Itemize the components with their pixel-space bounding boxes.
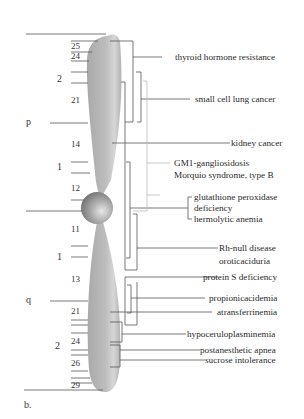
band-label: 21: [71, 96, 80, 105]
region-label: 2: [55, 341, 60, 351]
disease-label-thyroid-hormone-resistance: thyroid hormone resistance: [175, 52, 275, 63]
disease-label-rh-null-disease: Rh-null disease: [219, 243, 276, 254]
disease-label-sucrose-intolerance: sucrose intolerance: [205, 355, 276, 366]
disease-label-morquio-syndrome: Morquio syndrome, type B: [174, 170, 274, 181]
region-label: 2: [57, 74, 62, 84]
band-label: 25: [71, 42, 80, 51]
arm-label-p: p: [26, 117, 31, 127]
p-arm: [87, 34, 122, 200]
band-label: 14: [71, 140, 80, 149]
disease-label-kidney-cancer: kidney cancer: [231, 138, 282, 149]
disease-label-propionicacidemia: propionicacidemia: [209, 293, 277, 304]
band-label: 29: [71, 381, 80, 390]
band-label: 26: [71, 359, 80, 368]
band-label: 12: [71, 184, 80, 193]
q-arm: [88, 222, 121, 392]
disease-label-small-cell-lung-cancer: small cell lung cancer: [195, 94, 275, 105]
disease-label-oroticaciduria: oroticaciduria: [219, 256, 270, 267]
band-label: 24: [71, 52, 80, 61]
chromosome-body: [81, 34, 121, 392]
figure-caption: b.: [24, 399, 32, 410]
centromere: [81, 192, 113, 224]
region-label: 1: [57, 162, 62, 172]
disease-label-atransferrinemia: atransferrinemia: [217, 307, 277, 318]
disease-label-glutathione-peroxidase-deficiency: deficiency: [194, 203, 232, 214]
disease-label-protein-s-deficiency: protein S deficiency: [203, 272, 277, 283]
arm-label-q: q: [26, 295, 31, 305]
region-label: 1: [57, 252, 62, 262]
disease-label-hemolytic-anemia: hermolytic anemia: [194, 214, 263, 225]
band-label: 24: [71, 337, 80, 346]
band-label: 21: [71, 307, 80, 316]
band-label: 11: [71, 225, 80, 234]
chromosome-3-disease-map: p q 2 1 1 2 25 24 21 14 12 11 13 21 24 2…: [0, 0, 304, 419]
disease-label-glutathione-peroxidase: glutathione peroxidase: [194, 192, 277, 203]
bracket-lines-light: [133, 81, 170, 211]
disease-label-hypoceruloplasminemia: hypoceruloplasminemia: [187, 329, 275, 340]
band-label: 13: [71, 275, 80, 284]
disease-label-gm1-gangliosidosis: GM1-gangliosidosis: [174, 158, 249, 169]
